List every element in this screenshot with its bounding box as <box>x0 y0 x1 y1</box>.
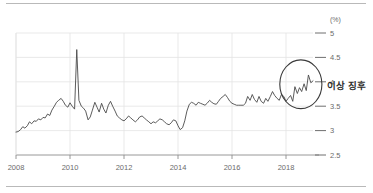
chart-figure: 200820102012201420162018 2.533.544.55 (%… <box>0 0 373 193</box>
x-tick-label: 2018 <box>278 163 295 172</box>
data-series-line <box>16 50 313 132</box>
line-chart-plot: 200820102012201420162018 2.533.544.55 (%… <box>0 0 373 193</box>
y-tick-label: 4.5 <box>330 53 340 62</box>
x-tick-label: 2016 <box>224 163 241 172</box>
y-axis-unit-label: (%) <box>330 16 341 24</box>
y-axis-tick-labels: 2.533.544.55 <box>330 29 340 160</box>
x-axis-tick-labels: 200820102012201420162018 <box>8 163 295 172</box>
y-tick-label: 3.5 <box>330 102 340 111</box>
anomaly-annotation-label: 이상 징후 <box>327 78 367 92</box>
grid-lines <box>16 33 313 155</box>
x-tick-label: 2012 <box>116 163 133 172</box>
y-tick-label: 3 <box>330 126 334 135</box>
x-tick-label: 2008 <box>8 163 25 172</box>
y-tick-label: 5 <box>330 29 334 38</box>
x-tick-label: 2010 <box>62 163 79 172</box>
x-tick-label: 2014 <box>170 163 187 172</box>
y-tick-label: 2.5 <box>330 151 340 160</box>
x-axis-ticks <box>16 155 286 159</box>
